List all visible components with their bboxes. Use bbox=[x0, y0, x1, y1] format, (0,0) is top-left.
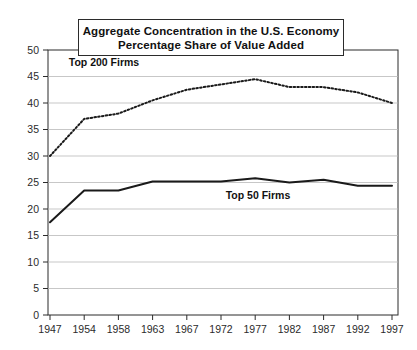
series-label-top-200-firms: Top 200 Firms bbox=[69, 56, 140, 68]
y-tick-label: 10 bbox=[27, 256, 39, 268]
y-tick-label: 35 bbox=[27, 123, 39, 135]
x-tick-label: 1992 bbox=[346, 323, 370, 335]
y-tick-label: 0 bbox=[33, 309, 39, 321]
x-tick-label: 1997 bbox=[380, 323, 404, 335]
y-tick-marks bbox=[43, 50, 48, 315]
chart-title-line-1: Aggregate Concentration in the U.S. Econ… bbox=[83, 24, 340, 38]
y-tick-label: 25 bbox=[27, 176, 39, 188]
x-tick-labels: 1947195419581963196719721977198219871992… bbox=[38, 323, 404, 335]
y-tick-label: 20 bbox=[27, 203, 39, 215]
x-tick-label: 1982 bbox=[278, 323, 302, 335]
chart-title-box: Aggregate Concentration in the U.S. Econ… bbox=[78, 19, 344, 56]
x-tick-label: 1987 bbox=[312, 323, 336, 335]
x-tick-label: 1977 bbox=[244, 323, 268, 335]
chart-title-line-2: Percentage Share of Value Added bbox=[118, 38, 304, 52]
y-tick-label: 15 bbox=[27, 229, 39, 241]
y-tick-label: 50 bbox=[27, 44, 39, 56]
x-tick-label: 1954 bbox=[73, 323, 97, 335]
y-tick-label: 40 bbox=[27, 97, 39, 109]
y-tick-label: 45 bbox=[27, 70, 39, 82]
x-tick-label: 1963 bbox=[141, 323, 165, 335]
x-tick-label: 1958 bbox=[107, 323, 131, 335]
x-tick-label: 1947 bbox=[38, 323, 62, 335]
series-label-top-50-firms: Top 50 Firms bbox=[226, 189, 291, 201]
y-tick-label: 30 bbox=[27, 150, 39, 162]
x-tick-marks bbox=[50, 315, 392, 320]
x-tick-label: 1972 bbox=[209, 323, 233, 335]
x-tick-label: 1967 bbox=[175, 323, 199, 335]
y-tick-label: 5 bbox=[33, 282, 39, 294]
y-tick-labels: 05101520253035404550 bbox=[27, 44, 39, 321]
chart-container: 05101520253035404550 1947195419581963196… bbox=[0, 0, 417, 350]
